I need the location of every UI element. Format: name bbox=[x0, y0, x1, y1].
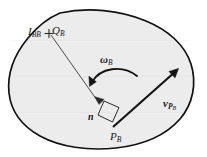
label-point-sub: B bbox=[117, 135, 122, 144]
label-normal-base: n bbox=[88, 111, 94, 122]
label-normal-n: n bbox=[88, 112, 94, 122]
label-centroid-sub: B bbox=[60, 29, 65, 38]
label-velocity-vPB: vPB bbox=[163, 98, 176, 109]
label-centroid-QB: QB bbox=[52, 25, 65, 36]
label-inertia-IBB: IBB bbox=[28, 26, 41, 37]
label-centroid-base: Q bbox=[52, 24, 60, 36]
label-velocity-subsub: B bbox=[172, 105, 176, 111]
figure-container: IBB QB ωB n PB vPB bbox=[0, 0, 207, 157]
label-point-base: P bbox=[110, 130, 117, 142]
label-angular-velocity-omegaB: ωB bbox=[100, 54, 113, 65]
label-inertia-sub: BB bbox=[32, 30, 41, 39]
figure-canvas bbox=[0, 0, 207, 157]
label-omega-sub: B bbox=[108, 58, 113, 67]
label-point-PB: PB bbox=[110, 131, 121, 142]
label-omega-base: ω bbox=[100, 53, 108, 65]
